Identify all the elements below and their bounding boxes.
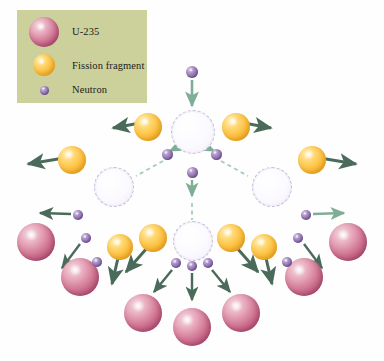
- u235-nucleus: [173, 308, 211, 346]
- fission-fragment: [139, 224, 167, 252]
- fission-fragment: [298, 146, 326, 174]
- neutron: [187, 261, 197, 271]
- legend-label-neutron: Neutron: [72, 84, 107, 95]
- legend-label-fission-fragment: Fission fragment: [72, 60, 144, 71]
- legend-item-neutron: [40, 86, 58, 95]
- legend-item-fission-fragment: [33, 54, 64, 76]
- neutron: [92, 257, 102, 267]
- u235-nucleus: [17, 223, 55, 261]
- neutron: [211, 149, 222, 160]
- neutron: [203, 258, 213, 268]
- neutron: [73, 210, 83, 220]
- u235-nucleus: [124, 294, 162, 332]
- fission-diagram: U-235 Fission fragment Neutron: [0, 0, 384, 361]
- fission-fragment: [134, 113, 162, 141]
- fission-fragment: [222, 113, 250, 141]
- fissioning-nucleus-gen2-right: [252, 167, 292, 207]
- legend-box: U-235 Fission fragment Neutron: [17, 10, 147, 103]
- neutron-sphere-icon: [40, 86, 49, 95]
- fissioning-nucleus-gen2-left: [94, 167, 134, 207]
- legend-label-u235: U-235: [72, 26, 99, 37]
- u235-nucleus: [222, 294, 260, 332]
- fission-fragment: [217, 224, 245, 252]
- neutron: [282, 257, 292, 267]
- fission-fragment: [107, 234, 133, 260]
- fissioning-nucleus-gen3: [173, 221, 213, 261]
- neutron: [187, 167, 198, 178]
- fissioning-nucleus-gen1: [171, 110, 215, 154]
- gen1-neutron-arrows: [136, 146, 248, 220]
- neutron: [81, 233, 91, 243]
- neutron: [301, 210, 311, 220]
- u235-sphere-icon: [29, 17, 59, 47]
- fission-fragment: [58, 146, 86, 174]
- fission-fragment: [251, 234, 277, 260]
- fission-fragment-sphere-icon: [33, 54, 55, 76]
- incident-neutron: [186, 66, 198, 78]
- u235-nucleus: [329, 223, 367, 261]
- neutron: [162, 149, 173, 160]
- neutron: [171, 258, 181, 268]
- gen3-neutron-arrows: [154, 270, 230, 300]
- neutron: [293, 233, 303, 243]
- legend-item-u235: [29, 17, 68, 47]
